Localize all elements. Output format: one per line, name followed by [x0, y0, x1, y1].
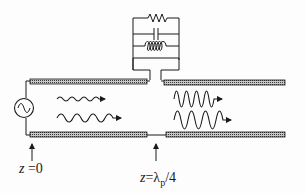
diagram-svg	[0, 0, 305, 193]
wave-large-2	[174, 111, 231, 129]
conductors	[30, 79, 285, 137]
ac-source	[15, 81, 34, 135]
transmitted-waves	[174, 91, 231, 129]
z0-label: z =0	[19, 161, 43, 177]
zq-label: z=λp/4	[140, 170, 176, 188]
diagram-canvas: z =0 z=λp/4	[0, 0, 305, 193]
wave-large-1	[174, 91, 222, 107]
resistor-icon	[133, 14, 179, 22]
inductor-icon	[145, 42, 166, 51]
incident-waves	[57, 97, 121, 122]
wave-small	[57, 97, 105, 101]
zq-eq: =λ	[145, 170, 160, 185]
top-right-conductor	[164, 80, 285, 85]
top-left-conductor	[30, 79, 147, 84]
capacitor-icon	[133, 28, 179, 40]
bottom-left-conductor	[30, 132, 147, 137]
wave-medium	[57, 114, 121, 122]
rlc-resonator	[133, 14, 179, 81]
bottom-right-conductor	[166, 132, 285, 137]
zq-tail: /4	[165, 170, 176, 185]
position-markers	[32, 144, 156, 161]
z0-eq: =0	[24, 161, 42, 176]
